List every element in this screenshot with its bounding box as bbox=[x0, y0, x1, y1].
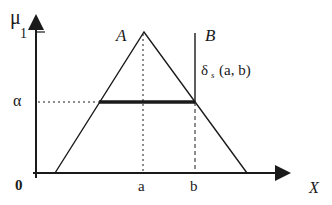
distance-label-args: (a, b) bbox=[219, 62, 251, 79]
distance-label-delta: δ bbox=[201, 62, 208, 78]
x-axis-label: X bbox=[308, 179, 320, 196]
x-tick-a-label: a bbox=[138, 178, 145, 194]
set-a-label: A bbox=[115, 26, 127, 45]
x-tick-b-label: b bbox=[190, 178, 198, 194]
y-tick-one-label: 1 bbox=[20, 26, 27, 41]
distance-label-sub: s bbox=[211, 70, 215, 80]
set-b-label: B bbox=[205, 26, 216, 45]
membership-diagram: μ 1 α 0 a b X A B δ s (a, b) bbox=[0, 0, 332, 205]
y-tick-alpha-label: α bbox=[13, 92, 22, 109]
origin-label: 0 bbox=[15, 177, 23, 193]
distance-label: δ s (a, b) bbox=[201, 62, 251, 80]
